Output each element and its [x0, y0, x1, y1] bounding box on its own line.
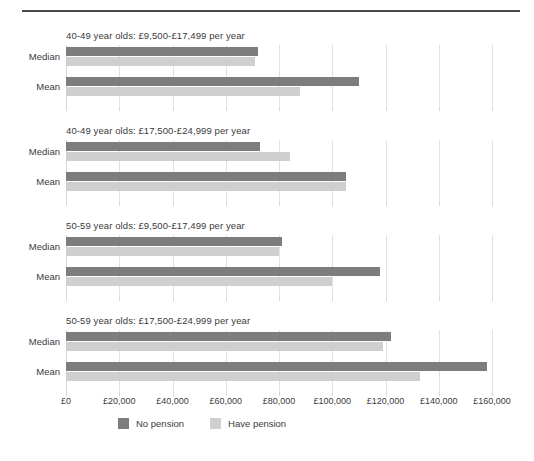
- tick-mark: [439, 297, 440, 301]
- bar-no-pension: [66, 332, 391, 341]
- panel-plot-area: MedianMean: [66, 140, 492, 202]
- bar-have-pension: [66, 247, 279, 256]
- tick-mark: [439, 107, 440, 111]
- tick-mark: [279, 297, 280, 301]
- legend-label: Have pension: [228, 418, 286, 429]
- x-axis: £0£20,000£40,000£60,000£80,000£100,000£1…: [66, 396, 492, 412]
- tick-mark: [332, 107, 333, 111]
- row-label: Mean: [0, 366, 60, 377]
- bar-group: Median: [66, 332, 492, 354]
- gridline: [492, 235, 493, 297]
- x-axis-label: £140,000: [420, 396, 458, 406]
- row-label: Mean: [0, 271, 60, 282]
- bar-groups: MedianMean: [66, 140, 492, 202]
- tick-mark: [492, 297, 493, 301]
- gridline: [492, 140, 493, 202]
- bar-no-pension: [66, 172, 346, 181]
- bar-group: Mean: [66, 267, 492, 289]
- bar-have-pension: [66, 372, 420, 381]
- bar-have-pension: [66, 152, 290, 161]
- bar-group: Mean: [66, 77, 492, 99]
- tick-mark: [332, 202, 333, 206]
- tick-mark: [386, 107, 387, 111]
- tick-marks: [66, 107, 492, 111]
- legend-item[interactable]: No pension: [118, 418, 184, 429]
- row-label: Mean: [0, 176, 60, 187]
- bar-have-pension: [66, 57, 255, 66]
- x-axis-label: £0: [61, 396, 71, 406]
- legend-swatch-icon: [118, 418, 129, 429]
- tick-mark: [173, 202, 174, 206]
- tick-mark: [226, 202, 227, 206]
- x-axis-label: £80,000: [263, 396, 296, 406]
- tick-mark: [279, 202, 280, 206]
- bar-group: Median: [66, 237, 492, 259]
- bar-groups: MedianMean: [66, 45, 492, 107]
- tick-marks: [66, 297, 492, 301]
- row-label: Median: [0, 241, 60, 252]
- chart-figure: 40-49 year olds: £9,500-£17,499 per year…: [0, 0, 534, 461]
- panel-title: 40-49 year olds: £9,500-£17,499 per year: [66, 30, 245, 41]
- tick-mark: [173, 107, 174, 111]
- tick-mark: [439, 202, 440, 206]
- tick-marks: [66, 202, 492, 206]
- bar-no-pension: [66, 237, 282, 246]
- tick-mark: [226, 297, 227, 301]
- gridline: [492, 330, 493, 392]
- panel-plot-area: MedianMean: [66, 330, 492, 392]
- bar-group: Median: [66, 142, 492, 164]
- tick-mark: [66, 297, 67, 301]
- tick-mark: [119, 202, 120, 206]
- x-axis-label: £100,000: [313, 396, 351, 406]
- row-label: Median: [0, 51, 60, 62]
- tick-mark: [386, 297, 387, 301]
- chart-legend: No pensionHave pension: [118, 418, 286, 429]
- tick-mark: [332, 297, 333, 301]
- bar-no-pension: [66, 267, 380, 276]
- tick-mark: [226, 107, 227, 111]
- tick-mark: [66, 202, 67, 206]
- bar-have-pension: [66, 182, 346, 191]
- top-divider: [22, 10, 520, 12]
- tick-mark: [492, 107, 493, 111]
- tick-mark: [173, 297, 174, 301]
- bar-no-pension: [66, 47, 258, 56]
- row-label: Median: [0, 146, 60, 157]
- tick-mark: [119, 297, 120, 301]
- x-axis-label: £20,000: [103, 396, 136, 406]
- bar-group: Median: [66, 47, 492, 69]
- tick-mark: [279, 107, 280, 111]
- panel-plot-area: MedianMean: [66, 45, 492, 107]
- legend-label: No pension: [136, 418, 184, 429]
- bar-have-pension: [66, 87, 300, 96]
- tick-mark: [492, 202, 493, 206]
- bar-group: Mean: [66, 362, 492, 384]
- legend-swatch-icon: [210, 418, 221, 429]
- panel-plot-area: MedianMean: [66, 235, 492, 297]
- row-label: Mean: [0, 81, 60, 92]
- bar-no-pension: [66, 77, 359, 86]
- bar-group: Mean: [66, 172, 492, 194]
- x-axis-label: £120,000: [367, 396, 405, 406]
- panel-title: 50-59 year olds: £9,500-£17,499 per year: [66, 220, 245, 231]
- bar-have-pension: [66, 342, 383, 351]
- tick-mark: [386, 202, 387, 206]
- row-label: Median: [0, 336, 60, 347]
- x-axis-label: £160,000: [473, 396, 511, 406]
- bar-groups: MedianMean: [66, 330, 492, 392]
- tick-mark: [66, 107, 67, 111]
- panel-title: 40-49 year olds: £17,500-£24,999 per yea…: [66, 125, 250, 136]
- bar-have-pension: [66, 277, 332, 286]
- bar-groups: MedianMean: [66, 235, 492, 297]
- gridline: [492, 45, 493, 107]
- legend-item[interactable]: Have pension: [210, 418, 286, 429]
- x-axis-label: £60,000: [209, 396, 242, 406]
- panel-title: 50-59 year olds: £17,500-£24,999 per yea…: [66, 315, 250, 326]
- x-axis-label: £40,000: [156, 396, 189, 406]
- tick-mark: [119, 107, 120, 111]
- bar-no-pension: [66, 362, 487, 371]
- bar-no-pension: [66, 142, 260, 151]
